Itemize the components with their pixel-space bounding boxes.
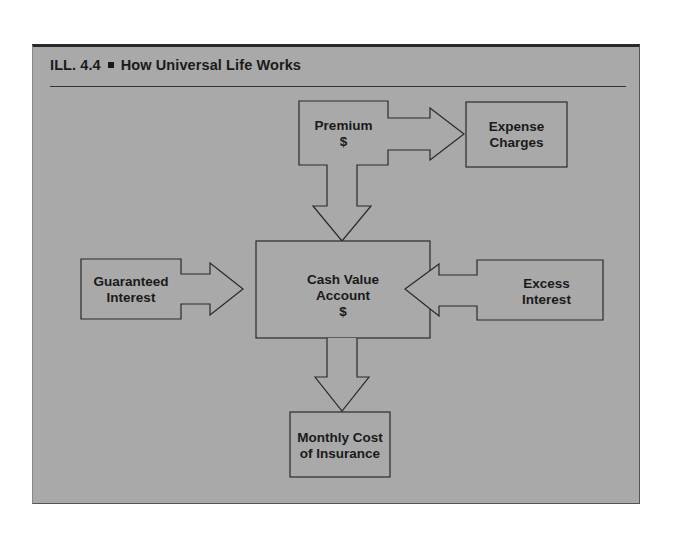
excess-interest-label: Excess Interest bbox=[490, 276, 603, 308]
monthly-cost-label-line1: Monthly Cost bbox=[290, 430, 390, 446]
cash-value-label-line2: Account bbox=[256, 288, 430, 304]
guaranteed-interest-label-line2: Interest bbox=[81, 290, 181, 306]
excess-interest-label-line1: Excess bbox=[490, 276, 603, 292]
expense-charges-label: Expense Charges bbox=[466, 119, 567, 151]
excess-interest-label-line2: Interest bbox=[490, 292, 603, 308]
cash-to-monthly-arrow bbox=[315, 338, 369, 411]
premium-label: Premium $ bbox=[299, 118, 388, 150]
cash-value-label-line1: Cash Value bbox=[256, 272, 430, 288]
premium-label-line2: $ bbox=[299, 134, 388, 150]
cash-value-label-line3: $ bbox=[256, 304, 430, 320]
cash-value-account-label: Cash Value Account $ bbox=[256, 272, 430, 320]
guaranteed-interest-label-line1: Guaranteed bbox=[81, 274, 181, 290]
premium-label-line1: Premium bbox=[299, 118, 388, 134]
expense-charges-label-line1: Expense bbox=[466, 119, 567, 135]
monthly-cost-label: Monthly Cost of Insurance bbox=[290, 430, 390, 462]
expense-charges-label-line2: Charges bbox=[466, 135, 567, 151]
guaranteed-interest-label: Guaranteed Interest bbox=[81, 274, 181, 306]
monthly-cost-label-line2: of Insurance bbox=[290, 446, 390, 462]
